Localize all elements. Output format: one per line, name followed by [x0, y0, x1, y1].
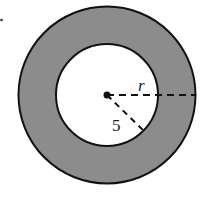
inner-radius-label: 5: [112, 116, 121, 135]
center-point: [104, 92, 111, 99]
annulus-diagram: r 5: [0, 0, 207, 197]
outer-radius-label: r: [138, 76, 145, 95]
stray-dot: [0, 19, 3, 22]
